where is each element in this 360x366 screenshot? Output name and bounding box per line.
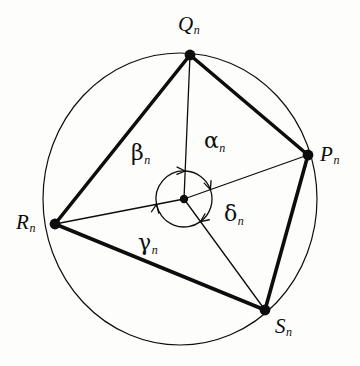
vertex-label-Q-sub: n	[194, 23, 200, 37]
angle-label-alpha-sub: n	[219, 141, 225, 155]
vertex-label-S-base: S	[275, 314, 286, 338]
angle-label-delta-sub: n	[238, 214, 244, 228]
diagram-canvas	[0, 0, 360, 366]
vertex-label-R-sub: n	[29, 221, 35, 235]
angle-label-beta: βn	[131, 142, 150, 166]
angle-label-delta-base: δ	[224, 201, 237, 226]
vertex-label-P: Pn	[320, 144, 339, 166]
angle-label-gamma-base: γ	[138, 230, 151, 255]
quad-edge-P-S	[265, 155, 308, 310]
radius-line-Q	[184, 55, 190, 199]
radius-line-R	[55, 199, 184, 224]
angle-arc-gamma	[157, 204, 201, 227]
inscribed-quadrilateral-group	[55, 55, 308, 310]
angle-label-gamma: γn	[138, 232, 158, 256]
vertex-label-S: Sn	[275, 316, 292, 338]
radius-line-P	[184, 155, 308, 199]
vertex-label-P-base: P	[320, 142, 333, 166]
angle-arc-alpha	[185, 171, 210, 190]
angle-label-beta-sub: n	[144, 153, 150, 167]
vertex-label-P-sub: n	[333, 153, 339, 167]
angle-label-alpha-base: α	[204, 128, 219, 153]
vertex-dot-Q	[185, 50, 196, 61]
vertex-dot-P	[303, 150, 314, 161]
angle-arc-delta	[201, 190, 213, 222]
vertex-label-R: Rn	[16, 212, 35, 234]
angle-label-beta-base: β	[131, 140, 144, 165]
angle-label-delta: δn	[224, 203, 244, 227]
angle-arrow-delta-1	[210, 181, 211, 190]
vertex-label-Q-base: Q	[178, 12, 193, 36]
quad-edge-R-Q	[55, 55, 190, 224]
angle-label-gamma-sub: n	[152, 243, 158, 257]
vertex-label-Q: Qn	[178, 14, 200, 36]
vertex-label-R-base: R	[16, 210, 29, 234]
center-point-dot	[180, 195, 188, 203]
angle-label-alpha: αn	[204, 130, 225, 154]
vertex-label-S-sub: n	[286, 325, 292, 339]
vertex-dot-R	[50, 219, 61, 230]
vertex-dot-S	[260, 305, 271, 316]
center-radii-group	[55, 55, 308, 310]
geometry-figure: Qn Pn Rn Sn αn βn γn δn	[0, 0, 360, 366]
